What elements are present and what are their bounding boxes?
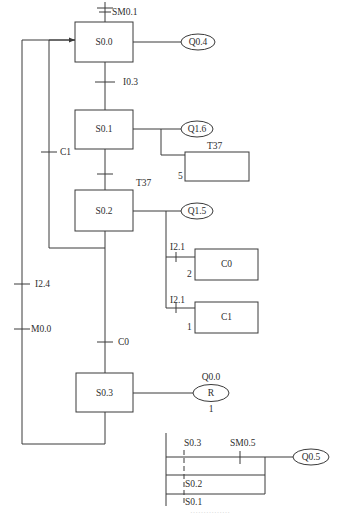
label-ladder-s02: S0.2 xyxy=(185,479,202,490)
label-i21-c1: I2.1 xyxy=(170,295,185,306)
timer-t37-box xyxy=(185,152,249,181)
label-t37-timer: T37 xyxy=(207,141,222,152)
label-s00: S0.0 xyxy=(75,37,133,48)
label-c1-preset: 1 xyxy=(187,322,192,333)
label-reset-count: 1 xyxy=(193,404,229,415)
figure-caption: …………… xyxy=(140,506,280,515)
label-s02: S0.2 xyxy=(75,206,133,217)
label-i21-c0: I2.1 xyxy=(170,242,185,253)
label-i24: I2.4 xyxy=(35,279,50,290)
label-ladder-s03: S0.3 xyxy=(184,438,201,449)
label-s03: S0.3 xyxy=(76,388,133,399)
sfc-diagram-canvas xyxy=(0,0,341,518)
label-reset-r: R xyxy=(193,388,229,399)
label-t37-transition: T37 xyxy=(136,178,151,189)
label-c1-transition: C1 xyxy=(60,147,71,158)
label-c0-transition: C0 xyxy=(118,337,129,348)
label-s01: S0.1 xyxy=(75,124,133,135)
label-q15: Q1.5 xyxy=(181,206,213,217)
label-q00: Q0.0 xyxy=(193,372,229,383)
label-sm01: SM0.1 xyxy=(112,7,138,18)
label-c0-counter: C0 xyxy=(195,259,258,270)
label-q04: Q0.4 xyxy=(181,37,215,48)
label-q05: Q0.5 xyxy=(293,452,329,463)
label-c0-preset: 2 xyxy=(187,269,192,280)
label-q16: Q1.6 xyxy=(181,124,213,135)
label-c1-counter: C1 xyxy=(195,312,258,323)
label-m00: M0.0 xyxy=(31,324,51,335)
label-t37-preset: 5 xyxy=(178,171,183,182)
label-ladder-sm05: SM0.5 xyxy=(230,438,256,449)
label-i03: I0.3 xyxy=(123,77,138,88)
